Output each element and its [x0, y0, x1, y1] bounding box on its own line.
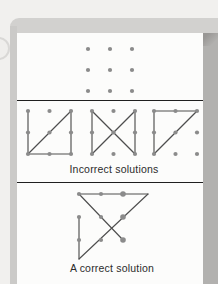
grid-dot	[108, 47, 112, 51]
nine-dot-grid-diagram	[17, 33, 203, 100]
grid-dot	[173, 152, 177, 156]
grid-dot	[90, 152, 94, 156]
grid-dot	[47, 109, 51, 113]
grid-dot	[47, 130, 51, 134]
grid-dot	[120, 214, 126, 220]
page-margin-ring-decoration	[0, 37, 10, 60]
grid-dot	[152, 109, 156, 113]
grid-dot	[111, 152, 115, 156]
grid-dot	[195, 152, 199, 156]
grid-dot	[99, 192, 103, 196]
grid-dot	[77, 238, 81, 242]
grid-dot	[120, 191, 126, 197]
grid-dot	[86, 89, 90, 93]
grid-dot	[90, 109, 94, 113]
grid-dot	[69, 130, 73, 134]
grid-dot	[26, 109, 30, 113]
grid-dot	[133, 109, 137, 113]
grid-dot	[152, 152, 156, 156]
grid-dot	[26, 130, 30, 134]
figure-frame-left	[10, 26, 17, 284]
grid-dot	[86, 47, 90, 51]
textbook-figure: Incorrect solutions A correct solution	[0, 0, 218, 284]
figure-frame-top	[10, 18, 218, 33]
grid-dot	[86, 68, 90, 72]
grid-dot	[77, 192, 81, 196]
grid-dot	[108, 89, 112, 93]
figure-panel: Incorrect solutions A correct solution	[17, 33, 203, 284]
grid-dot	[99, 238, 103, 242]
grid-dot	[130, 89, 134, 93]
grid-dot	[90, 130, 94, 134]
grid-dot	[69, 152, 73, 156]
grid-dot	[195, 109, 199, 113]
solution-line	[79, 194, 148, 259]
grid-dot	[108, 68, 112, 72]
grid-dot	[120, 237, 126, 243]
correct-solution-label: A correct solution	[17, 262, 205, 274]
corner-shadow	[203, 33, 218, 46]
grid-dot	[173, 130, 177, 134]
grid-dot	[77, 215, 81, 219]
grid-dot	[69, 109, 73, 113]
grid-dot	[173, 109, 177, 113]
grid-dot	[111, 130, 115, 134]
grid-dot	[130, 68, 134, 72]
grid-dot	[133, 130, 137, 134]
grid-dot	[99, 215, 103, 219]
grid-dot	[26, 152, 30, 156]
grid-dot	[47, 152, 51, 156]
grid-dot	[152, 130, 156, 134]
grid-dot	[130, 47, 134, 51]
figure-frame-right	[203, 33, 218, 284]
grid-dot	[133, 152, 137, 156]
grid-dot	[195, 130, 199, 134]
grid-dot	[111, 109, 115, 113]
incorrect-solutions-label: Incorrect solutions	[17, 163, 207, 175]
